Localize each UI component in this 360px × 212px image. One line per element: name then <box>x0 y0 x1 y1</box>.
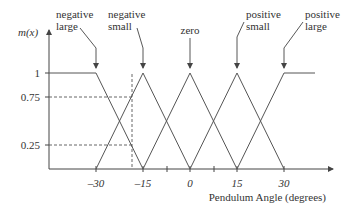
curve-negative-small <box>96 73 190 169</box>
set-label-zero: zero <box>181 24 200 36</box>
curve-negative-large <box>49 73 143 169</box>
set-label-negative-small-line1: negative <box>108 8 145 20</box>
pointer-negative-large <box>80 28 96 68</box>
y-axis-label: m(x) <box>18 26 38 39</box>
curve-positive-large <box>237 73 315 169</box>
set-label-positive-small-line1: positive <box>246 8 281 20</box>
y-tick-label-0.75: 0.75 <box>21 91 41 103</box>
pointer-positive-small <box>237 22 244 68</box>
pointer-positive-large <box>284 22 303 68</box>
set-label-negative-large-line1: negative <box>56 8 93 20</box>
set-label-positive-large-line1: positive <box>305 8 340 20</box>
pointer-negative-small <box>137 28 143 68</box>
x-axis-label: Pendulum Angle (degrees) <box>209 191 327 204</box>
set-label-positive-small-line2: small <box>246 20 270 32</box>
x-tick-label-minus30: –30 <box>87 177 105 189</box>
set-label-negative-small-line2: small <box>108 20 132 32</box>
x-tick-label-0: 0 <box>187 177 193 189</box>
y-tick-label-1: 1 <box>35 67 41 79</box>
y-tick-label-0.25: 0.25 <box>21 139 41 151</box>
x-tick-label-15: 15 <box>232 177 244 189</box>
curve-positive-small <box>190 73 284 169</box>
set-label-negative-large-line2: large <box>56 20 78 32</box>
x-tick-label-30: 30 <box>278 177 291 189</box>
membership-function-diagram: m(x) 1 0.75 0.25 –30 –15 0 15 30 Pendulu… <box>0 0 360 212</box>
x-tick-label-minus15: –15 <box>134 177 152 189</box>
curve-zero <box>143 73 237 169</box>
set-label-positive-large-line2: large <box>305 20 327 32</box>
